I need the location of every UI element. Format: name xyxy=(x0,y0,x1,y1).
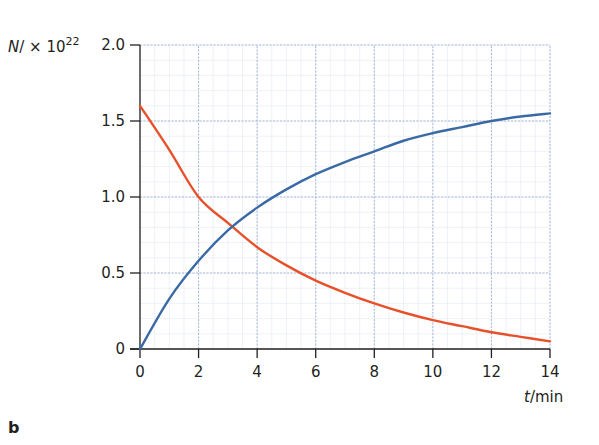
x-tick-label: 0 xyxy=(135,363,145,381)
x-axis-title: t/min xyxy=(524,388,563,406)
chart-svg: 0246810121400.51.01.52.0 N/ × 1022 t/min xyxy=(0,0,599,445)
x-tick-label: 10 xyxy=(423,363,442,381)
x-tick-label: 14 xyxy=(540,363,559,381)
y-tick-label: 2.0 xyxy=(101,36,125,54)
y-axis-title: N/ × 1022 xyxy=(8,35,79,56)
y-tick-label: 0.5 xyxy=(101,264,125,282)
y-tick-label: 1.5 xyxy=(101,112,125,130)
x-tick-label: 12 xyxy=(482,363,501,381)
panel-label: b xyxy=(8,418,19,437)
tick-marks xyxy=(130,45,550,358)
y-tick-label: 0 xyxy=(115,340,125,358)
x-tick-label: 4 xyxy=(252,363,262,381)
y-tick-label: 1.0 xyxy=(101,188,125,206)
x-tick-label: 8 xyxy=(370,363,380,381)
x-tick-label: 6 xyxy=(311,363,321,381)
x-tick-label: 2 xyxy=(194,363,204,381)
